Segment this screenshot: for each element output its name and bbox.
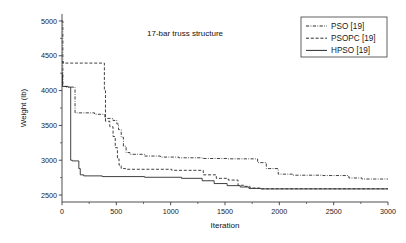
series-line-hpso: [62, 73, 388, 189]
x-tick-label-2000: 2000: [271, 207, 287, 216]
y-tick-label-5000: 5000: [41, 17, 57, 26]
chart-page: 2500300035004000450050000500100015002000…: [0, 0, 406, 243]
y-tick-label-2500: 2500: [41, 191, 57, 200]
y-tick-label-4500: 4500: [41, 51, 57, 60]
y-tick-label-3500: 3500: [41, 121, 57, 130]
y-tick-label-3000: 3000: [41, 156, 57, 165]
x-tick-label-0: 0: [60, 207, 64, 216]
x-axis-title: Iteration: [211, 221, 240, 230]
x-tick-label-500: 500: [110, 207, 122, 216]
series-line-psopc: [62, 62, 388, 189]
x-tick-label-2500: 2500: [326, 207, 342, 216]
legend-label: HPSO [19]: [331, 46, 370, 55]
chart-title: 17-bar truss structure: [147, 29, 224, 38]
legend-chart-legend[interactable]: PSO [19]PSOPC [19]HPSO [19]: [301, 17, 387, 57]
x-tick-label-3000: 3000: [380, 207, 396, 216]
x-tick-label-1000: 1000: [163, 207, 179, 216]
legend-label: PSO [19]: [331, 22, 364, 31]
y-axis-title: Weight (lb): [19, 88, 28, 127]
x-tick-label-1500: 1500: [217, 207, 233, 216]
y-tick-label-4000: 4000: [41, 86, 57, 95]
convergence-chart: 2500300035004000450050000500100015002000…: [0, 0, 406, 243]
legend-label: PSOPC [19]: [331, 34, 376, 43]
